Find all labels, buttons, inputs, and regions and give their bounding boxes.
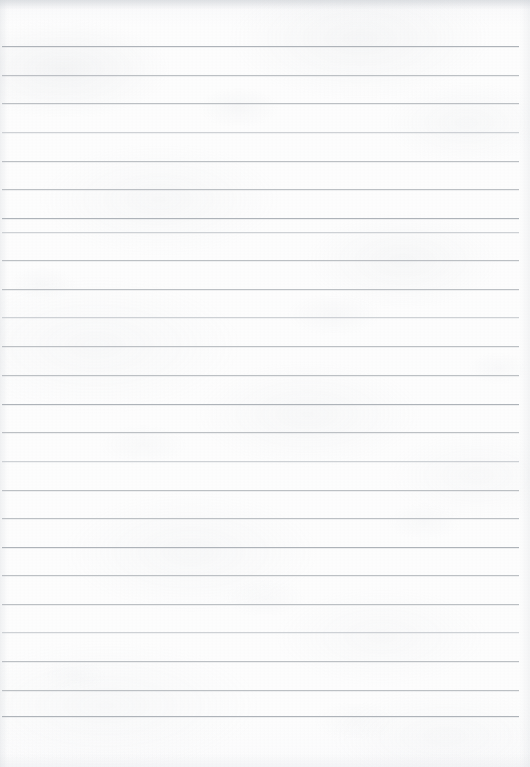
notebook-page [0, 0, 530, 767]
page-text-content [0, 0, 530, 767]
